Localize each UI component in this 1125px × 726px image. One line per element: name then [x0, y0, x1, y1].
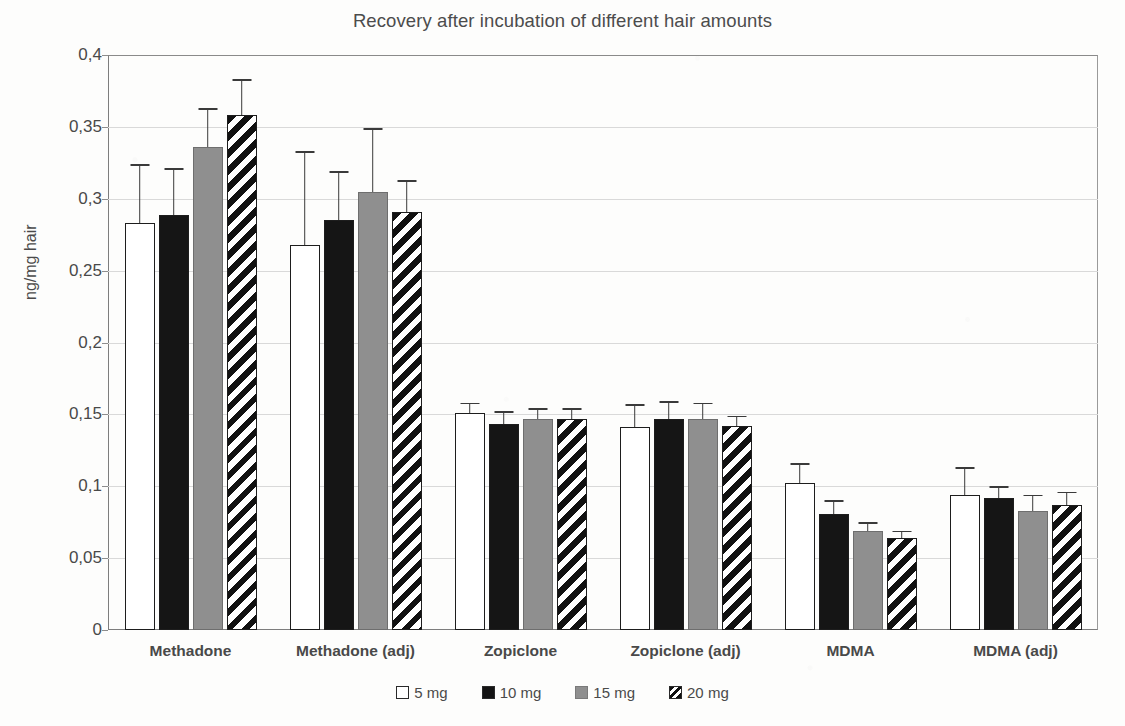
bar-chart-figure: Recovery after incubation of different h… — [0, 0, 1125, 726]
x-axis-category-label: Zopiclone — [438, 642, 603, 660]
bar-slot — [950, 55, 980, 630]
bar[interactable] — [620, 427, 650, 630]
bar-slot — [159, 55, 189, 630]
bar[interactable] — [125, 223, 155, 630]
error-bar-cap — [1057, 492, 1076, 494]
error-bar-cap — [625, 404, 644, 406]
bar-slot — [819, 55, 849, 630]
bar-slot — [853, 55, 883, 630]
legend-swatch-icon — [396, 686, 409, 699]
bar-slot — [785, 55, 815, 630]
bar[interactable] — [1052, 505, 1082, 630]
error-bar-cap — [363, 128, 382, 130]
bar-group — [108, 55, 273, 630]
error-bar-cap — [460, 403, 479, 405]
bar[interactable] — [523, 419, 553, 630]
error-bar-cap — [693, 403, 712, 405]
error-bar — [867, 524, 869, 531]
legend-item[interactable]: 5 mg — [396, 684, 447, 701]
legend-swatch-icon — [575, 686, 588, 699]
error-bar-cap — [164, 168, 183, 170]
bar-slot — [887, 55, 917, 630]
bar[interactable] — [159, 215, 189, 630]
bar-slot — [557, 55, 587, 630]
error-bar-cap — [892, 531, 911, 533]
bar-slot — [722, 55, 752, 630]
plot-area: 0,40,350,30,250,20,150,10,050 — [108, 55, 1098, 630]
bar-group — [603, 55, 768, 630]
bar-slot — [1052, 55, 1082, 630]
bar[interactable] — [227, 115, 257, 630]
chart-legend: 5 mg10 mg15 mg20 mg — [0, 684, 1125, 701]
error-bar — [338, 173, 340, 220]
bar[interactable] — [722, 426, 752, 630]
bar-slot — [290, 55, 320, 630]
y-axis-title: ng/mg hair — [22, 224, 40, 300]
error-bar-cap — [232, 79, 251, 81]
bar[interactable] — [950, 495, 980, 630]
legend-item[interactable]: 15 mg — [575, 684, 635, 701]
y-tick-label: 0,05 — [46, 548, 102, 568]
legend-item[interactable]: 10 mg — [482, 684, 542, 701]
error-bar-cap — [858, 522, 877, 524]
bar-slot — [324, 55, 354, 630]
x-axis-category-label: Methadone — [108, 642, 273, 660]
bar[interactable] — [193, 147, 223, 630]
error-bar — [571, 410, 573, 419]
bar-group — [438, 55, 603, 630]
bar[interactable] — [489, 424, 519, 630]
error-bar — [702, 404, 704, 418]
error-bar — [998, 488, 1000, 498]
bar[interactable] — [887, 538, 917, 630]
x-axis-category-label: MDMA (adj) — [933, 642, 1098, 660]
x-axis-category-label: MDMA — [768, 642, 933, 660]
bar[interactable] — [654, 419, 684, 630]
error-bar-cap — [1023, 495, 1042, 497]
bar[interactable] — [455, 413, 485, 630]
error-bar — [304, 153, 306, 245]
bar-slot — [227, 55, 257, 630]
error-bar-cap — [955, 467, 974, 469]
bar-group — [768, 55, 933, 630]
bar[interactable] — [392, 212, 422, 630]
error-bar — [207, 110, 209, 147]
bar[interactable] — [290, 245, 320, 630]
error-bar — [139, 166, 141, 224]
error-bar — [799, 465, 801, 484]
y-tick-label: 0,4 — [46, 45, 102, 65]
bar[interactable] — [853, 531, 883, 630]
legend-label: 5 mg — [414, 684, 447, 701]
y-tick-label: 0,35 — [46, 117, 102, 137]
bar[interactable] — [1018, 511, 1048, 630]
legend-swatch-icon — [482, 686, 495, 699]
bar-slot — [1018, 55, 1048, 630]
bar-slot — [489, 55, 519, 630]
x-axis-category-label: Methadone (adj) — [273, 642, 438, 660]
error-bar-cap — [790, 463, 809, 465]
bar[interactable] — [358, 192, 388, 630]
error-bar — [1032, 496, 1034, 510]
bar-slot — [125, 55, 155, 630]
error-bar-cap — [198, 108, 217, 110]
bar[interactable] — [688, 419, 718, 630]
legend-item[interactable]: 20 mg — [669, 684, 729, 701]
y-tick-label: 0,15 — [46, 404, 102, 424]
error-bar — [406, 182, 408, 212]
y-tick-label: 0,2 — [46, 333, 102, 353]
error-bar-cap — [562, 408, 581, 410]
y-tick-label: 0,1 — [46, 476, 102, 496]
error-bar — [537, 410, 539, 419]
error-bar — [241, 81, 243, 116]
bar[interactable] — [785, 483, 815, 630]
legend-label: 10 mg — [500, 684, 542, 701]
error-bar — [964, 469, 966, 495]
bar[interactable] — [557, 419, 587, 630]
bar[interactable] — [819, 514, 849, 630]
error-bar — [833, 502, 835, 514]
legend-swatch-icon — [669, 686, 682, 699]
bar-slot — [358, 55, 388, 630]
bar[interactable] — [984, 498, 1014, 630]
error-bar-cap — [528, 408, 547, 410]
bar[interactable] — [324, 220, 354, 630]
error-bar — [469, 404, 471, 413]
